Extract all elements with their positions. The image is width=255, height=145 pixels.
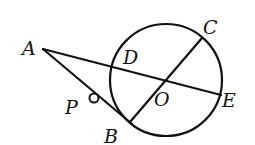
label-p: P [64,96,79,118]
label-c: C [203,16,218,38]
label-a: A [20,37,36,59]
geometry-figure: A B C D E O P [0,0,255,145]
point-p-marker [90,94,99,103]
diagram-canvas: A B C D E O P [0,0,255,145]
label-b: B [103,125,118,145]
label-d: D [122,46,138,68]
label-e: E [221,89,236,111]
label-o: O [154,88,170,110]
